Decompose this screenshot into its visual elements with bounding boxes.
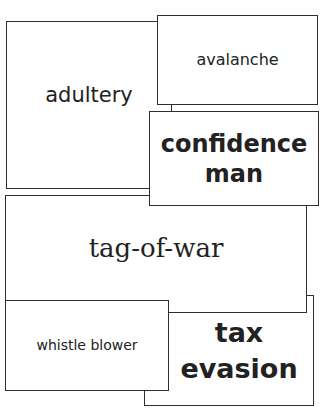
card-avalanche[interactable]: avalanche [157,15,318,105]
card-tag-of-war[interactable]: tag-of-war [5,195,307,313]
card-label: tag-of-war [89,234,224,264]
card-confidence-man[interactable]: confidence man [149,111,319,206]
card-adultery[interactable]: adultery [6,21,172,189]
card-label: whistle blower [36,337,137,353]
card-label: avalanche [196,51,278,69]
card-label: adultery [45,83,133,107]
card-whistle-blower[interactable]: whistle blower [5,300,169,391]
card-label: confidence man [159,129,309,189]
card-label: tax evasion [174,315,304,385]
